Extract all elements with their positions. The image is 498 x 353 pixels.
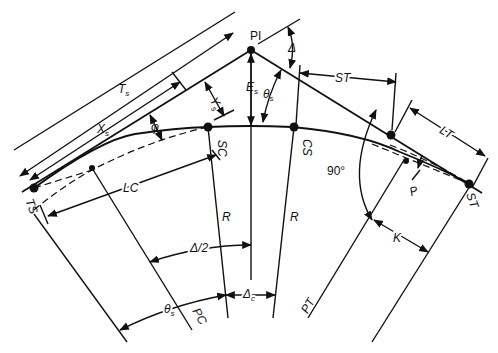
point-PI — [247, 46, 255, 54]
point-SC — [204, 123, 213, 132]
point-spiral-offset-left — [89, 165, 95, 171]
forward-tangent-line — [251, 50, 482, 193]
label-PC: PC — [189, 306, 210, 328]
point-TS — [30, 184, 39, 193]
label-LT: LT — [437, 123, 457, 143]
label-SC: SC — [215, 140, 229, 157]
label-Xs: Xs — [96, 122, 109, 138]
label-delta: Δ — [287, 41, 296, 55]
label-Ts: Ts — [118, 82, 129, 98]
label-CS: CS — [300, 139, 314, 156]
label-LC: LC — [123, 181, 139, 195]
spiral-curve-diagram: PI TS SC CS ST PC PT Ts Xs Ys φ Es θs Δ … — [0, 0, 498, 353]
label-ST-dim: ST — [335, 71, 352, 85]
label-Ys: Ys — [205, 95, 225, 113]
label-K: K — [393, 231, 402, 245]
label-phi: φ — [151, 120, 159, 134]
label-P: P — [408, 183, 420, 199]
label-delta-half: Δ/2 — [189, 241, 208, 255]
label-PT: PT — [298, 294, 319, 316]
label-90-degrees: 90° — [327, 164, 345, 178]
label-TS: TS — [22, 197, 40, 216]
point-ST-tangent — [387, 131, 396, 140]
label-Es: Es — [246, 80, 258, 96]
back-tangent-line — [22, 50, 251, 192]
label-ST: ST — [463, 191, 482, 212]
label-PI: PI — [250, 29, 261, 43]
LT-dimension — [395, 100, 488, 188]
label-R-right: R — [290, 210, 299, 224]
point-ST — [465, 180, 474, 189]
label-theta-s-bottom: θs — [164, 302, 175, 318]
point-CS — [290, 123, 299, 132]
point-spiral-offset-right — [403, 158, 409, 164]
label-delta-c: Δc — [242, 287, 255, 303]
label-R-left: R — [222, 210, 231, 224]
